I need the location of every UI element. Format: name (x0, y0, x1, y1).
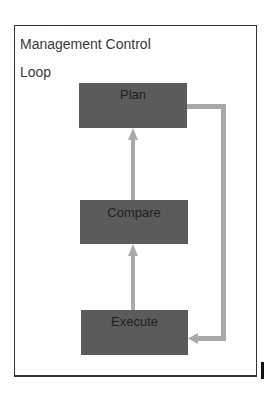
arrow-plan-to-execute (187, 104, 226, 344)
node-execute-label: Execute (81, 310, 188, 329)
text-cursor-mark (261, 362, 264, 379)
arrow-execute-to-compare (128, 244, 138, 310)
node-plan: Plan (79, 83, 187, 128)
node-compare-label: Compare (80, 200, 188, 220)
node-compare: Compare (80, 200, 188, 244)
node-plan-label: Plan (79, 83, 187, 102)
arrow-compare-to-plan (128, 128, 138, 200)
node-execute: Execute (81, 310, 188, 355)
